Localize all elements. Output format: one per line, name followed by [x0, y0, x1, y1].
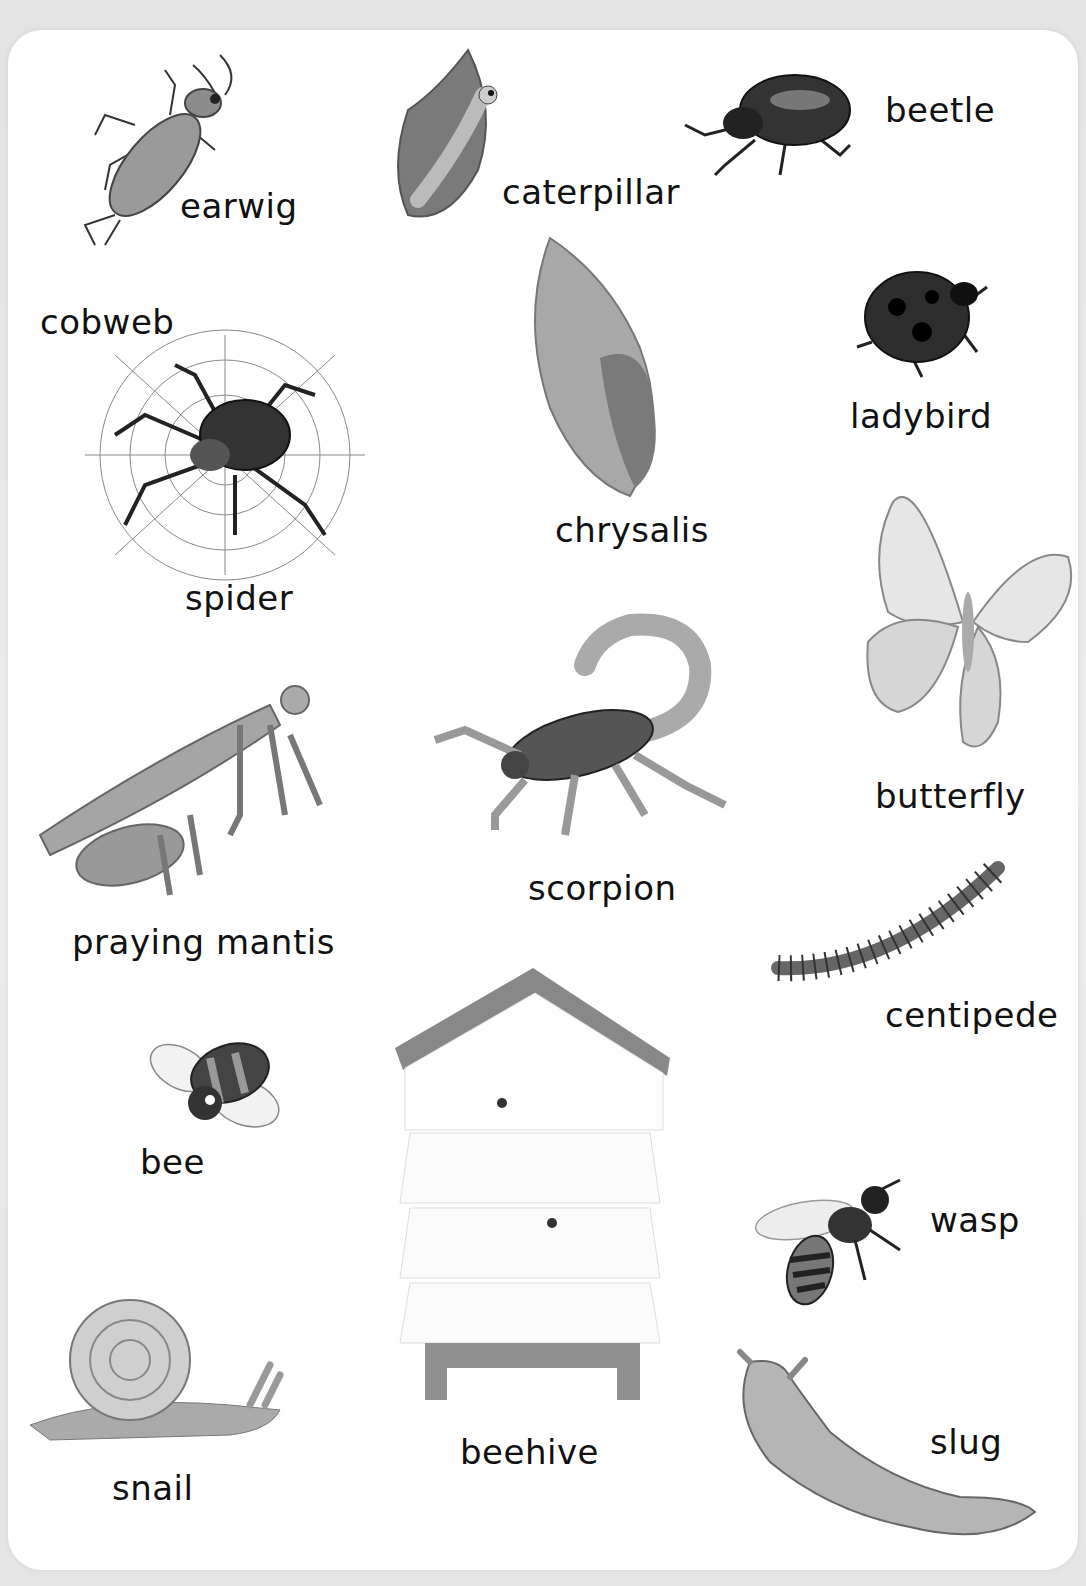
wasp-icon	[755, 1170, 905, 1310]
caterpillar-label: caterpillar	[502, 172, 680, 212]
ladybird-icon	[852, 262, 992, 377]
beetle-icon	[685, 65, 860, 180]
scorpion-icon	[425, 615, 730, 850]
butterfly-icon	[858, 492, 1078, 757]
beehive-icon	[395, 968, 670, 1400]
wasp-label: wasp	[930, 1200, 1020, 1240]
praying-mantis-icon	[40, 665, 330, 900]
snail-label: snail	[112, 1468, 194, 1508]
beetle-label: beetle	[885, 90, 995, 130]
centipede-label: centipede	[885, 995, 1058, 1035]
caterpillar-icon	[388, 50, 508, 220]
beehive-label: beehive	[460, 1432, 599, 1472]
bee-label: bee	[140, 1142, 205, 1182]
spider-label: spider	[185, 578, 293, 618]
slug-label: slug	[930, 1422, 1002, 1462]
centipede-icon	[768, 858, 1013, 988]
butterfly-label: butterfly	[875, 776, 1026, 816]
chrysalis-label: chrysalis	[555, 510, 709, 550]
ladybird-label: ladybird	[850, 396, 992, 436]
bee-icon	[140, 1028, 285, 1143]
scorpion-label: scorpion	[528, 868, 677, 908]
chrysalis-icon	[510, 238, 670, 498]
snail-icon	[30, 1295, 285, 1440]
spider-icon	[85, 335, 365, 575]
earwig-label: earwig	[180, 186, 298, 226]
praying-mantis-label: praying mantis	[72, 922, 335, 962]
